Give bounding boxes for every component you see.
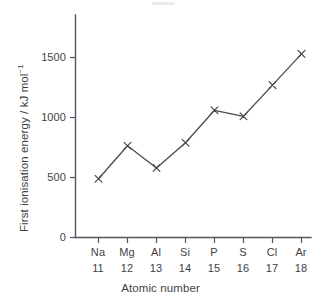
x-tick-label-number-cl: 17	[266, 262, 278, 274]
data-point-al	[153, 165, 160, 172]
y-tick-label-1500: 1500	[34, 51, 66, 63]
data-point-na	[95, 175, 102, 182]
y-axis-title: First ionisation energy / kJ mol−1	[18, 64, 30, 232]
x-tick-label-number-si: 14	[179, 262, 191, 274]
x-tick-label-symbol-s: S	[239, 246, 246, 258]
x-tick-label-symbol-ar: Ar	[295, 246, 306, 258]
y-axis-ticks	[70, 58, 76, 238]
x-tick-label-number-al: 13	[150, 262, 162, 274]
x-tick-label-symbol-cl: Cl	[267, 246, 278, 258]
x-tick-label-number-na: 11	[92, 262, 104, 274]
data-series-markers	[95, 51, 305, 183]
data-series-line	[99, 54, 302, 179]
x-tick-label-number-s: 16	[237, 262, 249, 274]
y-axis-title-superscript: −1	[16, 64, 25, 73]
x-tick-label-number-mg: 12	[121, 262, 133, 274]
x-axis-title: Atomic number	[0, 282, 321, 294]
x-tick-label-number-ar: 18	[295, 262, 307, 274]
data-point-ar	[298, 51, 305, 58]
x-tick-label-number-p: 15	[208, 262, 220, 274]
x-tick-label-symbol-al: Al	[151, 246, 161, 258]
data-point-cl	[269, 82, 276, 89]
y-tick-label-1000: 1000	[34, 111, 66, 123]
data-point-mg	[124, 142, 131, 149]
x-tick-label-symbol-mg: Mg	[119, 246, 134, 258]
x-tick-label-symbol-na: Na	[91, 246, 105, 258]
x-tick-label-symbol-si: Si	[180, 246, 190, 258]
ionisation-energy-chart: 1500 1000 500 0 Na 11 Mg 12 Al 13 Si 14 …	[0, 0, 321, 301]
x-tick-label-symbol-p: P	[210, 246, 217, 258]
x-axis-ticks	[99, 238, 302, 244]
data-point-si	[182, 139, 189, 146]
y-tick-label-0: 0	[34, 231, 66, 243]
y-tick-label-500: 500	[34, 171, 66, 183]
y-axis-title-text: First ionisation energy / kJ mol	[18, 73, 30, 232]
